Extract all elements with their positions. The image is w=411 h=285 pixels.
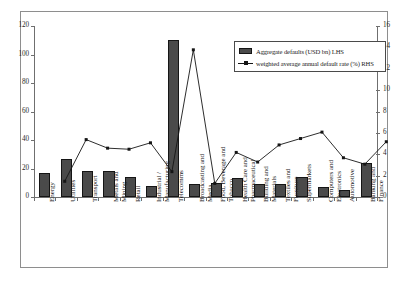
left-axis-line — [34, 26, 35, 199]
right-tick-label: 8 — [383, 108, 387, 115]
line-marker — [299, 137, 302, 140]
x-axis-label: Metals andMining — [112, 172, 128, 202]
x-axis-label: Food, Beverage andTobacco — [219, 147, 235, 202]
bar-swatch-icon — [239, 48, 252, 54]
x-tick — [34, 197, 35, 201]
x-axis-label: Building andMaterials — [262, 166, 278, 202]
x-axis-label: Health Care andPharmaceutical — [241, 157, 257, 202]
left-tick-label: 0 — [2, 193, 29, 200]
line-marker — [128, 148, 131, 151]
x-axis-label: Automotive — [348, 169, 356, 202]
line-marker — [342, 156, 345, 159]
left-tick — [31, 83, 35, 84]
x-axis-label: Retail — [134, 186, 142, 202]
line-marker — [106, 147, 109, 150]
x-axis-label: Industrial /Manufacturing — [155, 161, 171, 202]
right-tick-label: 6 — [383, 129, 387, 136]
line-marker — [85, 138, 88, 141]
x-axis-label: Banking andFinance — [369, 167, 385, 202]
legend-label-line: weighted average annual default rate (%)… — [256, 60, 374, 67]
left-tick-label: 120 — [2, 22, 29, 29]
x-axis-label: Supermarkets — [305, 164, 313, 202]
line-marker — [385, 140, 388, 143]
right-tick — [376, 133, 380, 134]
left-tick-label: 60 — [2, 108, 29, 115]
left-tick-label: 20 — [2, 165, 29, 172]
line-marker — [192, 48, 195, 51]
x-axis-label: Energy — [48, 182, 56, 202]
x-axis-label: Utilities — [69, 180, 77, 202]
line-swatch-icon — [238, 60, 253, 67]
legend-label-bar: Aggregate defaults (USD bn) LHS — [256, 48, 344, 55]
legend-item-bar: Aggregate defaults (USD bn) LHS — [238, 45, 382, 57]
right-tick — [376, 90, 380, 91]
x-axis-label: Textiles andFurniture — [284, 169, 300, 202]
figure-frame: 020406080100120 0246810121416 EnergyUtil… — [20, 11, 388, 268]
chart-figure: 020406080100120 0246810121416 EnergyUtil… — [0, 0, 411, 285]
right-tick-label: 4 — [383, 150, 387, 157]
right-tick — [376, 112, 380, 113]
chart-legend: Aggregate defaults (USD bn) LHS weighted… — [234, 41, 386, 72]
left-tick — [31, 26, 35, 27]
right-tick — [376, 26, 380, 27]
legend-item-line: weighted average annual default rate (%)… — [238, 57, 382, 69]
x-axis-label: Telecomms — [177, 170, 185, 202]
right-tick — [376, 154, 380, 155]
left-tick — [31, 140, 35, 141]
x-axis-label: Computers andElectronics — [327, 160, 343, 202]
line-marker — [149, 141, 152, 144]
left-tick-label: 80 — [2, 79, 29, 86]
left-tick-label: 40 — [2, 136, 29, 143]
x-axis-label: Transport — [91, 175, 99, 202]
left-tick — [31, 112, 35, 113]
left-tick-label: 100 — [2, 51, 29, 58]
right-tick-label: 10 — [383, 86, 390, 93]
x-axis-label: Broadcasting andMedia — [198, 154, 214, 202]
line-marker — [278, 143, 281, 146]
line-marker — [320, 131, 323, 134]
left-tick — [31, 55, 35, 56]
left-tick — [31, 169, 35, 170]
right-tick-label: 16 — [383, 22, 390, 29]
